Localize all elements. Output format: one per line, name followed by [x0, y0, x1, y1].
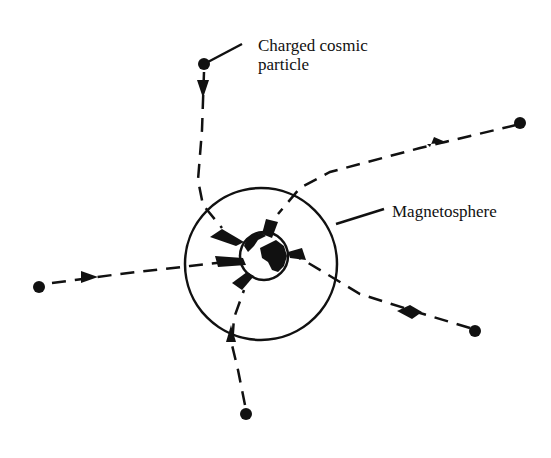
- arrow-icon: [197, 80, 209, 98]
- particle-dot-bottom: [240, 408, 252, 420]
- particle-dot-left: [33, 281, 45, 293]
- arrow-icon: [288, 248, 306, 260]
- trajectory-top: [198, 72, 222, 228]
- trajectories: [52, 72, 516, 405]
- arrow-icon: [81, 271, 98, 283]
- magnetosphere-leader-line: [336, 209, 384, 224]
- particle-leader-line: [206, 44, 242, 63]
- arrow-icon: [427, 137, 448, 147]
- magnetosphere-label: Magnetosphere: [392, 202, 497, 221]
- particle-label-line-1: Charged cosmic: [258, 36, 418, 55]
- particle-dot-top: [198, 58, 210, 70]
- arrow-icon: [232, 272, 254, 290]
- particle-dot-right-lower: [469, 325, 481, 337]
- particle-label-line-2: particle: [258, 55, 418, 74]
- particle-dot-right-upper: [514, 117, 526, 129]
- trajectory-left: [52, 262, 226, 283]
- particle-label: Charged cosmic particle: [258, 36, 418, 74]
- trajectory-right-upper: [278, 125, 516, 214]
- arrow-icon: [210, 229, 244, 246]
- trajectory-bottom: [232, 290, 245, 405]
- trajectory-right-lower: [294, 255, 470, 328]
